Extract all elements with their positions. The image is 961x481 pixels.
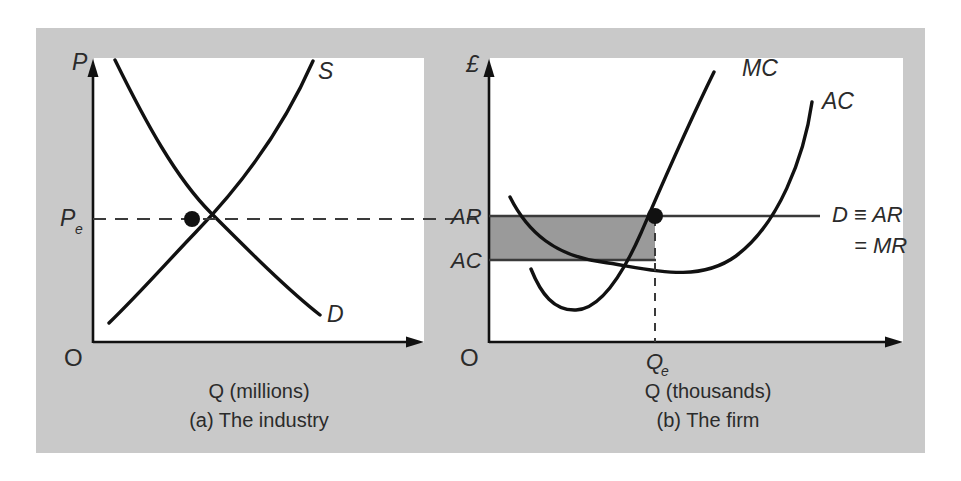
equilibrium-quantity-subscript: e [661, 363, 669, 379]
figure-root: P P e O S D Q (millions) (a) The industr… [0, 0, 961, 481]
panel-b-title-caption: (b) The firm [657, 409, 760, 431]
average-cost-axis-label: AC [449, 248, 482, 273]
panel-b-axis-caption: Q (thousands) [645, 380, 772, 402]
average-cost-label: AC [820, 88, 854, 114]
figure-gray-panel: P P e O S D Q (millions) (a) The industr… [36, 28, 925, 453]
panel-b-equilibrium-point [647, 208, 663, 224]
panel-b-origin-label: O [460, 344, 479, 371]
economics-figure-svg: P P e O S D Q (millions) (a) The industr… [36, 28, 925, 453]
panel-b-y-axis-label: £ [465, 51, 480, 77]
marginal-cost-label: MC [742, 55, 778, 81]
panel-a-origin-label: O [64, 344, 83, 371]
panel-a-plot-background [94, 58, 424, 343]
panel-a-title-caption: (a) The industry [189, 409, 329, 431]
panel-a-group: P P e O S D Q (millions) (a) The industr… [60, 49, 476, 431]
equilibrium-price-label: P [60, 205, 76, 231]
revenue-line-label-secondary: = MR [854, 233, 907, 258]
panel-a-equilibrium-point [184, 211, 200, 227]
demand-curve-label: D [327, 301, 344, 327]
panel-a-y-axis-label: P [72, 49, 88, 75]
average-revenue-axis-label: AR [449, 204, 482, 229]
revenue-line-label-primary: D ≡ AR [832, 202, 903, 227]
supply-curve-label: S [318, 58, 334, 84]
equilibrium-price-subscript: e [75, 221, 83, 237]
panel-b-group: £ AR AC O MC AC D ≡ AR = MR Q e Q (thous… [449, 51, 907, 431]
panel-a-axis-caption: Q (millions) [208, 380, 309, 402]
